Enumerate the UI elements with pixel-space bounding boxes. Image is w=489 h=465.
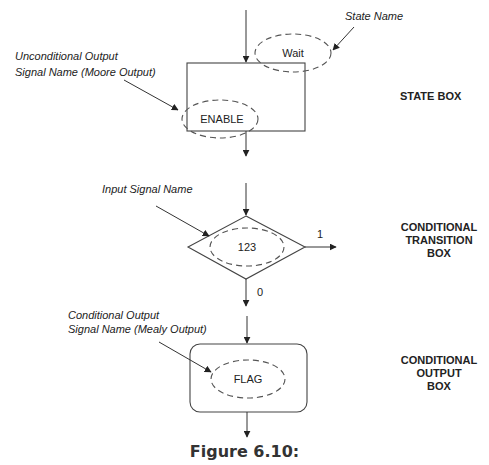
- moore-label-line2: Signal Name (Moore Output): [15, 66, 156, 78]
- input-signal-value: 123: [238, 241, 256, 253]
- output-title-line1: CONDITIONAL: [401, 354, 478, 366]
- mealy-label-line1: Conditional Output: [68, 309, 160, 321]
- state-box-group: Wait ENABLE State Name Unconditional Out…: [15, 10, 462, 156]
- input-signal-label: Input Signal Name: [102, 183, 193, 195]
- input-signal-pointer: [156, 206, 209, 236]
- mealy-output-value: FLAG: [234, 373, 263, 385]
- conditional-output-group: FLAG Conditional Output Signal Name (Mea…: [68, 309, 477, 437]
- false-branch-label: 0: [257, 286, 263, 298]
- transition-title-line3: BOX: [427, 247, 452, 259]
- mealy-label-pointer: [159, 342, 211, 372]
- output-title-line3: BOX: [427, 380, 452, 392]
- state-name-value: Wait: [282, 47, 304, 59]
- moore-output-value: ENABLE: [200, 113, 243, 125]
- state-box-title: STATE BOX: [400, 90, 462, 102]
- transition-title-line1: CONDITIONAL: [401, 221, 478, 233]
- figure-caption: Figure 6.10:: [0, 442, 489, 461]
- moore-label-line1: Unconditional Output: [15, 50, 119, 62]
- state-name-pointer: [333, 27, 354, 50]
- moore-label-pointer: [124, 80, 178, 110]
- transition-title-line2: TRANSITION: [405, 234, 472, 246]
- conditional-transition-group: 123 1 0 Input Signal Name CONDITIONAL TR…: [102, 183, 477, 306]
- mealy-label-line2: Signal Name (Mealy Output): [68, 323, 207, 335]
- output-title-line2: OUTPUT: [416, 367, 462, 379]
- asm-chart-diagram: Wait ENABLE State Name Unconditional Out…: [0, 0, 489, 465]
- true-branch-label: 1: [317, 228, 323, 240]
- state-name-label: State Name: [345, 10, 403, 22]
